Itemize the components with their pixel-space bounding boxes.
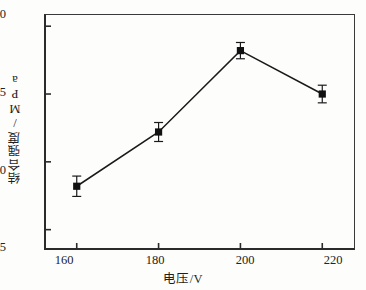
x-tick-label: 200 (225, 254, 265, 267)
x-tick-label: 220 (313, 254, 353, 267)
y-tick-label: 10 (0, 164, 6, 177)
x-tick-label: 180 (135, 254, 175, 267)
plot-area (44, 14, 355, 250)
y-tick-label: 20 (0, 8, 6, 21)
y-tick-label: 15 (0, 86, 6, 99)
y-tick-label: 5 (0, 241, 6, 254)
chart-figure: 20 15 10 5 160 180 200 220 电压/V 结合强度/MPa (0, 0, 366, 290)
x-axis-title: 电压/V (0, 268, 366, 287)
y-axis-title: 结合强度/MPa (9, 72, 25, 184)
x-tick-label: 160 (44, 254, 84, 267)
